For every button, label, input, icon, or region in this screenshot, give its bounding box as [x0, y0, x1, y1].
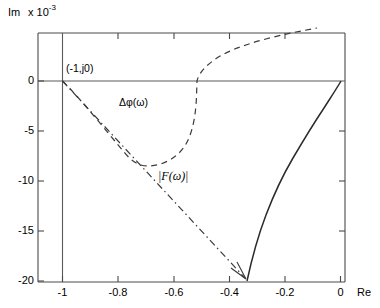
x-tick-label-minus0p8: -0.8 — [98, 286, 138, 298]
magnitude-label: |F(ω)| — [158, 166, 188, 184]
phase-reference-arc-curve — [63, 28, 318, 166]
y-tick-label-minus10: -10 — [2, 174, 34, 186]
frequency-response-locus-curve — [247, 81, 341, 281]
y-tick-label-minus5: -5 — [2, 124, 34, 136]
y-axis-exponent-mantissa: x 10 — [28, 6, 49, 18]
y-axis-exponent: x 10-3 — [28, 2, 56, 20]
x-tick-label-minus0p6: -0.6 — [154, 286, 194, 298]
magnitude-label-function-symbol: F — [161, 169, 168, 183]
y-axis-title-text: Im — [8, 6, 20, 18]
x-tick-marks-bottom — [63, 276, 341, 282]
y-tick-label-0: 0 — [2, 74, 34, 86]
x-tick-label-minus0p2: -0.2 — [265, 286, 305, 298]
y-tick-marks — [38, 81, 44, 281]
x-tick-label-0: 0 — [321, 286, 361, 298]
magnitude-label-argument: (ω)| — [169, 169, 189, 183]
y-axis-title: Im — [8, 2, 20, 20]
plot-canvas — [0, 0, 380, 308]
magnitude-vector-line — [63, 81, 246, 278]
x-tick-label-minus1: -1 — [43, 286, 83, 298]
y-tick-label-minus15: -15 — [2, 224, 34, 236]
x-axis-title: Re — [357, 286, 371, 298]
x-tick-label-minus0p4: -0.4 — [210, 286, 250, 298]
critical-point-label: (-1,j0) — [66, 62, 93, 74]
nyquist-plot-figure: Im x 10-3 0 -5 -10 -15 -20 -1 -0.8 -0.6 … — [0, 0, 380, 308]
y-axis-exponent-power: -3 — [49, 3, 56, 12]
x-tick-marks-top — [118, 33, 285, 39]
phase-difference-label: Δφ(ω) — [119, 96, 148, 108]
right-spine-ticks — [339, 131, 345, 231]
y-tick-label-minus20: -20 — [2, 274, 34, 286]
